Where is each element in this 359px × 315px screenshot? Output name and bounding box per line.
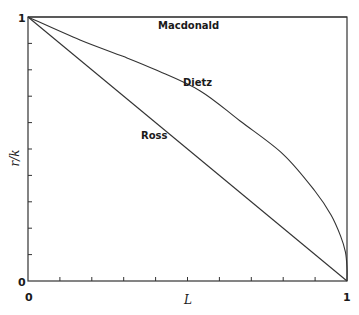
x-axis-label: L <box>183 293 192 307</box>
series-label-macdonald: Macdonald <box>158 20 219 31</box>
x-tick-min: 0 <box>25 291 33 304</box>
y-tick-min: 0 <box>18 276 26 289</box>
series-label-dietz: Dietz <box>183 77 212 88</box>
x-tick-max: 1 <box>343 291 351 304</box>
y-axis-label: r/k <box>8 149 22 166</box>
series-ross-line <box>28 17 347 281</box>
series-lines <box>28 17 347 281</box>
series-label-ross: Ross <box>141 130 168 141</box>
chart: 1 0 0 1 L r/k Macdonald Dietz Ross <box>0 0 359 315</box>
y-tick-max: 1 <box>18 12 26 25</box>
